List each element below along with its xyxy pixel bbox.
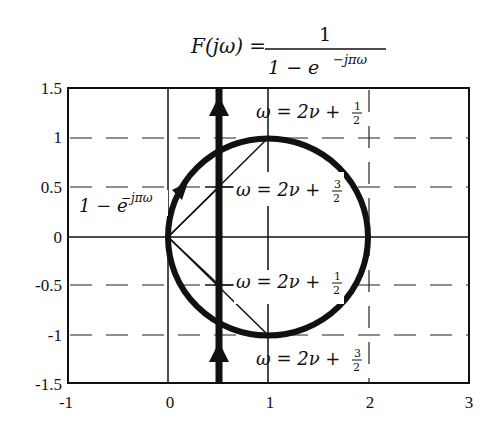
svg-text:1: 1 (334, 270, 341, 283)
title-numerator: 1 (319, 23, 331, 45)
svg-text:2: 2 (353, 361, 360, 374)
svg-text:−jπω: −jπω (121, 191, 153, 205)
svg-text:-1.5: -1.5 (35, 375, 62, 394)
svg-text:ω = 2ν +: ω = 2ν + (256, 348, 340, 369)
svg-text:ω = 2ν +: ω = 2ν + (256, 101, 340, 122)
chart-title: F(jω) = 1 1 − e −jπω (190, 23, 386, 78)
svg-text:2: 2 (353, 114, 360, 127)
svg-text:3: 3 (465, 393, 474, 412)
title-lhs: F(jω) = (190, 34, 266, 58)
svg-text:0.5: 0.5 (41, 178, 62, 197)
svg-text:2: 2 (333, 192, 340, 205)
title-exponent: −jπω (333, 52, 367, 67)
svg-text:ω = 2ν +: ω = 2ν + (236, 179, 320, 200)
svg-text:1: 1 (266, 393, 275, 412)
up-arrow-icon (209, 342, 229, 362)
solid-gridlines (68, 88, 469, 383)
svg-text:-1: -1 (59, 393, 73, 412)
annotation-bottom: ω = 2ν + 3 2 (256, 347, 362, 374)
y-tick-labels: 1.5 1 0.5 0 -0.5 -1 -1.5 (35, 79, 62, 394)
svg-text:1: 1 (54, 128, 63, 147)
svg-text:3: 3 (334, 178, 341, 191)
svg-text:-1: -1 (48, 326, 62, 345)
svg-text:1.5: 1.5 (41, 79, 62, 98)
title-denominator: 1 − e (268, 56, 319, 78)
nyquist-figure: F(jω) = 1 1 − e −jπω 1 − e (0, 0, 496, 441)
up-arrow-icon (209, 96, 229, 116)
svg-text:-0.5: -0.5 (35, 276, 62, 295)
annotation-top: ω = 2ν + 1 2 (256, 100, 362, 127)
svg-text:0: 0 (54, 228, 63, 247)
svg-text:2: 2 (333, 284, 340, 297)
svg-text:0: 0 (166, 393, 175, 412)
x-tick-labels: -1 0 1 2 3 (59, 393, 473, 412)
svg-text:2: 2 (366, 393, 375, 412)
svg-text:ω = 2ν +: ω = 2ν + (236, 271, 320, 292)
svg-text:3: 3 (354, 347, 361, 360)
svg-text:1: 1 (354, 100, 361, 113)
